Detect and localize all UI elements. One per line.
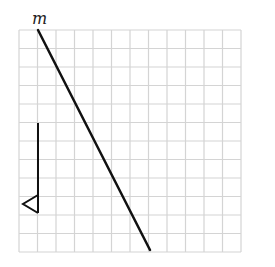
triangle-marker [23, 195, 38, 213]
line-m-label: m [32, 11, 47, 27]
grid-figure [0, 0, 275, 267]
diagram-canvas: m [0, 0, 275, 267]
grid-lines [19, 30, 241, 252]
line-m [38, 30, 150, 250]
